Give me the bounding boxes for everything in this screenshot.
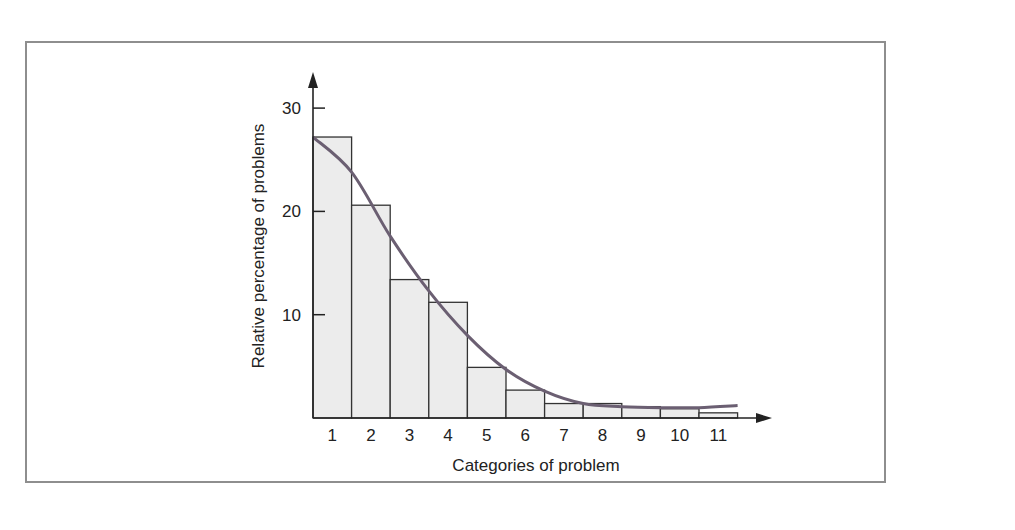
x-tick-label: 1 (328, 426, 337, 445)
x-ticks: 1234567891011 (328, 426, 728, 445)
bar-4 (429, 302, 468, 418)
bar-2 (352, 205, 391, 418)
x-tick-label: 3 (405, 426, 414, 445)
bar-10 (660, 409, 699, 418)
x-tick-label: 11 (709, 426, 727, 445)
pareto-chart: 102030 1234567891011 Relative percentage… (0, 0, 1015, 530)
x-tick-label: 10 (670, 426, 689, 445)
bar-7 (545, 404, 584, 418)
x-tick-label: 4 (443, 426, 452, 445)
x-tick-label: 6 (521, 426, 530, 445)
y-axis-title: Relative percentage of problems (249, 124, 268, 369)
y-axis-arrow-icon (308, 72, 318, 88)
x-tick-label: 7 (559, 426, 568, 445)
x-tick-label: 2 (366, 426, 375, 445)
bar-1 (313, 137, 352, 418)
x-axis-title: Categories of problem (452, 456, 619, 475)
x-axis-arrow-icon (756, 413, 772, 423)
y-tick-label: 30 (282, 99, 301, 118)
bar-5 (467, 367, 506, 418)
x-tick-label: 9 (636, 426, 645, 445)
x-tick-label: 8 (598, 426, 607, 445)
y-tick-label: 10 (282, 306, 301, 325)
bars (313, 137, 738, 418)
x-tick-label: 5 (482, 426, 491, 445)
bar-6 (506, 390, 545, 418)
y-tick-label: 20 (282, 202, 301, 221)
bar-3 (390, 280, 429, 418)
